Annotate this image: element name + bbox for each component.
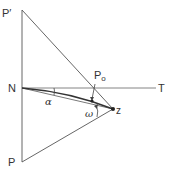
label-p0-sub: o xyxy=(101,74,106,83)
point-p0 xyxy=(90,99,93,102)
label-z: z xyxy=(116,105,121,116)
label-omega: ω xyxy=(85,108,93,119)
line-n-z xyxy=(22,88,113,109)
label-p0: Po xyxy=(94,69,106,83)
label-p-prime: P′ xyxy=(2,7,11,19)
label-p: P xyxy=(8,156,15,168)
line-pprime-z xyxy=(22,10,113,109)
label-p0-main: P xyxy=(94,69,101,81)
label-alpha: α xyxy=(45,96,52,107)
point-z xyxy=(111,107,115,111)
geometry-diagram: P′ N T P z Po α ω xyxy=(0,0,174,175)
label-t: T xyxy=(158,82,165,94)
label-n: N xyxy=(8,82,16,94)
line-p-z xyxy=(22,109,113,162)
